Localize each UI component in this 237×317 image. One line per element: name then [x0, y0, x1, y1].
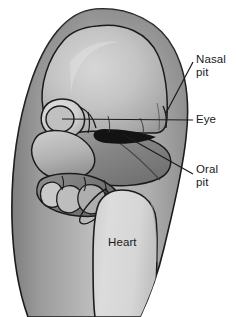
- label-heart: Heart: [108, 236, 137, 248]
- heart-structure: [93, 190, 157, 317]
- label-oral-pit: Oral pit: [196, 163, 218, 188]
- embryo-illustration: [0, 0, 237, 317]
- heart-outline: [93, 190, 157, 317]
- label-nasal-pit: Nasal pit: [196, 53, 226, 78]
- embryo-figure: Nasal pit Eye Oral pit Heart: [0, 0, 237, 317]
- label-eye: Eye: [196, 113, 216, 126]
